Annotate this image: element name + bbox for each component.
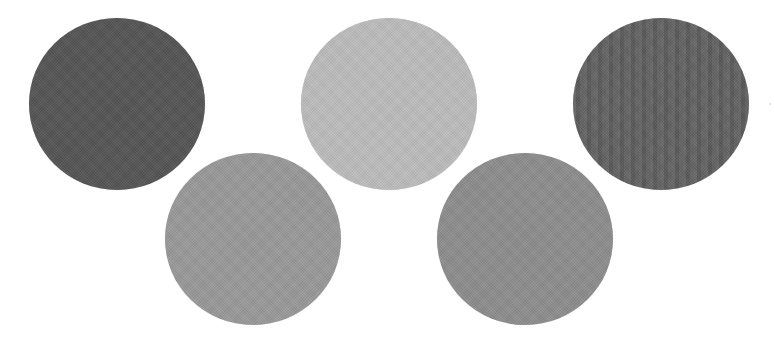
circle-mid-gray-bottom-left <box>165 153 341 325</box>
circle-dark-gray-top-left <box>29 18 205 190</box>
circle-mid-gray-bottom-right <box>437 153 613 325</box>
scan-artifact-speck <box>769 103 771 105</box>
circle-dark-gray-top-right <box>573 18 749 190</box>
circles-figure <box>0 0 774 339</box>
circle-light-gray-top-center <box>301 18 477 190</box>
